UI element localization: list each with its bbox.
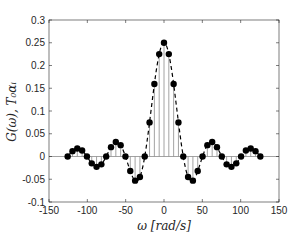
y-tick-label: 0.2 (31, 60, 45, 71)
data-point-marker (170, 81, 176, 87)
chart: -150-100-50050100150 -0.1-0.0500.050.10.… (0, 0, 299, 243)
data-point-marker (238, 153, 244, 159)
data-point-marker (190, 177, 196, 183)
data-point-marker (252, 148, 258, 154)
data-point-marker (137, 174, 143, 180)
y-tick-label: 0 (39, 151, 45, 162)
y-tick-label: -0.1 (28, 197, 46, 208)
data-point-marker (199, 153, 205, 159)
data-point-marker (166, 51, 172, 57)
y-tick-label: 0.1 (31, 106, 45, 117)
data-point-marker (127, 168, 133, 174)
data-point-marker (233, 160, 239, 166)
x-tick-label: 100 (232, 205, 249, 216)
x-axis-ticks: -150-100-50050100150 (39, 20, 288, 216)
x-tick-label: 150 (271, 205, 288, 216)
y-tick-label: 0.15 (26, 83, 46, 94)
x-tick-label: -50 (118, 205, 133, 216)
data-point-marker (146, 119, 152, 125)
data-point-marker (79, 147, 85, 153)
data-point-marker (219, 153, 225, 159)
data-point-marker (64, 153, 70, 159)
data-point-marker (180, 153, 186, 159)
data-point-marker (117, 142, 123, 148)
data-point-marker (175, 119, 181, 125)
y-tick-label: 0.05 (26, 128, 46, 139)
data-point-marker (103, 153, 109, 159)
x-axis-label: ω [rad/s] (137, 219, 191, 233)
data-point-marker (151, 81, 157, 87)
x-tick-label: 0 (161, 205, 167, 216)
data-point-marker (195, 168, 201, 174)
data-point-marker (84, 153, 90, 159)
y-tick-label: 0.3 (31, 15, 45, 26)
y-tick-label: 0.25 (26, 37, 46, 48)
x-tick-label: 50 (197, 205, 209, 216)
data-point-marker (156, 51, 162, 57)
stems (68, 43, 261, 181)
data-point-marker (257, 153, 263, 159)
x-tick-label: -100 (77, 205, 97, 216)
data-point-marker (209, 139, 215, 145)
data-point-marker (161, 40, 167, 46)
data-point-marker (214, 144, 220, 150)
data-point-marker (122, 153, 128, 159)
data-point-marker (98, 161, 104, 167)
y-tick-label: -0.05 (22, 174, 45, 185)
y-axis-label: G(ω), T₀αᵢ (5, 82, 19, 142)
data-point-marker (108, 144, 114, 150)
data-point-marker (142, 153, 148, 159)
